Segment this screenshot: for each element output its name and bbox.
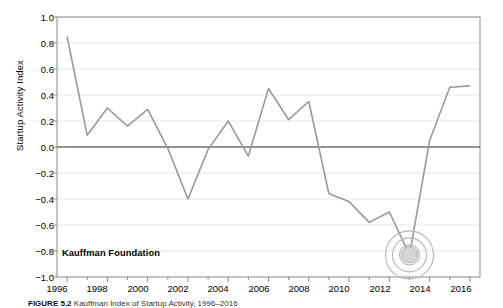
chart-plot-area <box>0 0 503 308</box>
figure-caption-label: FIGURE 5.2 <box>28 299 72 308</box>
y-tick-marks <box>53 17 57 277</box>
figure-container: Startup Activity Index 1.0 0.8 0.6 0.4 0… <box>0 0 503 308</box>
bullseye-marker <box>386 231 434 279</box>
figure-caption-text: Kauffman Index of Startup Activity, 1996… <box>74 299 238 308</box>
bullseye-center <box>402 247 418 263</box>
figure-caption: FIGURE 5.2 Kauffman Index of Startup Act… <box>28 299 238 308</box>
x-tick-marks <box>67 277 470 282</box>
kauffman-foundation-label: Kauffman Foundation <box>62 248 160 258</box>
